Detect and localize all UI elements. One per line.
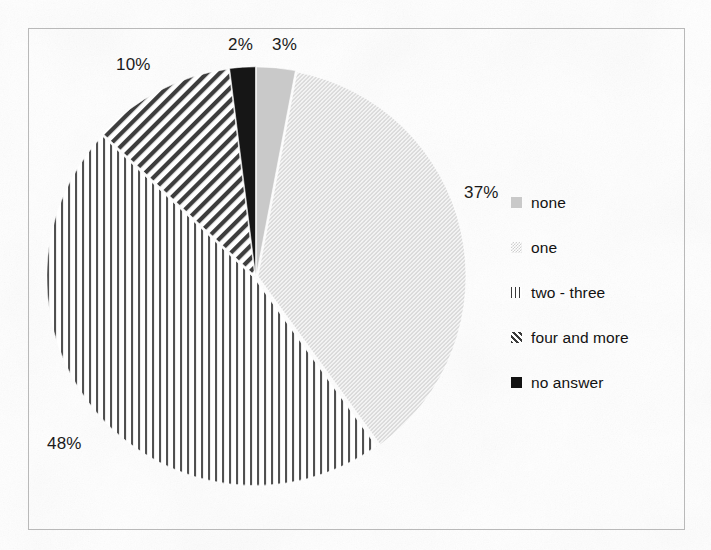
pie-label-no-answer: 2% [228,35,253,55]
legend-swatch-none-icon [511,197,522,208]
pie-label-two-three: 48% [47,434,82,454]
pie-label-four-and-more: 10% [116,55,151,75]
legend-label-two-three: two - three [531,284,605,302]
legend-item-none[interactable]: none [511,180,681,225]
legend-item-no-answer[interactable]: no answer [511,360,681,405]
legend-item-two-three[interactable]: two - three [511,270,681,315]
legend-label-no-answer: no answer [531,374,603,392]
legend-swatch-no-answer-icon [511,377,522,388]
legend-label-one: one [531,239,557,257]
legend-item-one[interactable]: one [511,225,681,270]
legend-item-four-and-more[interactable]: four and more [511,315,681,360]
legend-swatch-two-three-icon [511,287,522,298]
legend-swatch-four-and-more-icon [511,332,522,343]
legend-label-none: none [531,194,566,212]
pie-label-one: 37% [464,183,499,203]
legend-label-four-and-more: four and more [531,329,629,347]
pie-label-none: 3% [272,35,297,55]
chart-legend: none one two - three four and more no an… [511,180,681,405]
legend-swatch-one-icon [511,242,522,253]
